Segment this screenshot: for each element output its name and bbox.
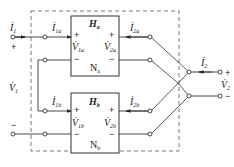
label-v1: V̇1	[9, 82, 18, 94]
terminal-a2-bottom	[148, 58, 152, 62]
port2-minus-sign: −	[225, 91, 230, 101]
terminal-b1-bottom	[43, 132, 47, 136]
nb-v2-minus: −	[109, 129, 114, 139]
port2-plus-sign: +	[225, 68, 230, 78]
terminal-a1-bottom	[43, 58, 47, 62]
nb-v2-plus: +	[109, 105, 114, 115]
terminal-port1-plus	[11, 35, 15, 39]
network-a-output-wires	[119, 37, 148, 60]
nb-v1-plus: +	[74, 105, 79, 115]
na-v1-plus: +	[74, 30, 79, 40]
label-i2: İ2	[200, 57, 207, 69]
port1-plus-sign: +	[11, 42, 16, 52]
terminal-b2-bottom	[148, 132, 152, 136]
nb-v1-minus: −	[74, 129, 79, 139]
na-v2-plus: +	[109, 30, 114, 40]
circuit-diagram: İ1 + V̇1 − İ1a Ha + V̇1a − + V̇2a − Na İ…	[0, 0, 234, 167]
node-port2-top	[187, 70, 191, 74]
terminal-port2-minus	[218, 94, 222, 98]
label-i1a: İ1a	[51, 22, 61, 34]
na-v1-minus: −	[74, 54, 79, 64]
terminal-a1-top	[43, 35, 47, 39]
label-i1b: İ1b	[51, 96, 61, 108]
label-i2b: İ2b	[129, 96, 139, 108]
node-port2-bottom	[187, 94, 191, 98]
terminal-a2-top	[148, 35, 152, 39]
terminal-port2-plus	[218, 70, 222, 74]
terminal-port1-minus	[11, 132, 15, 136]
cross-connection-wires	[152, 38, 189, 133]
port1-minus-sign: −	[11, 120, 16, 130]
terminal-b2-top	[148, 109, 152, 113]
na-v2-minus: −	[109, 54, 114, 64]
label-i2a: İ2a	[129, 22, 139, 34]
label-i1: İ1	[9, 22, 16, 34]
label-v2: V̇2	[221, 79, 230, 91]
network-b-output-wires	[119, 111, 148, 134]
terminal-b1-top	[43, 109, 47, 113]
port2-wires	[191, 72, 218, 96]
